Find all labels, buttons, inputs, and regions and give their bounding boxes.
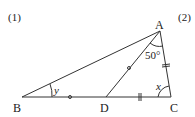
angle-arc-A (150, 43, 163, 46)
angle-B-label: y (53, 84, 59, 96)
problem-label-2: (2) (178, 11, 191, 24)
vertex-A-label: A (155, 18, 164, 32)
vertex-B-label: B (13, 101, 21, 115)
angle-arc-B (50, 84, 52, 97)
segment-AD (106, 31, 160, 97)
side-AB (22, 31, 160, 97)
triangle-diagram: (1) (2) A B C D 50° x y (0, 0, 195, 117)
angle-A-label: 50° (145, 49, 160, 61)
problem-label-1: (1) (8, 11, 21, 24)
angle-C-label: x (155, 80, 161, 92)
tick-AC-1 (162, 64, 170, 65)
tick-AC-2 (162, 66, 170, 67)
tick-circle-AD (128, 67, 131, 70)
vertex-D-label: D (100, 101, 109, 115)
triangle-edges (22, 31, 171, 101)
vertex-C-label: C (170, 101, 178, 115)
